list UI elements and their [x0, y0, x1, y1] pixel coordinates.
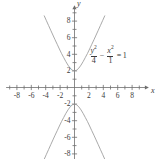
y-tick-label: 2: [61, 67, 71, 75]
x-tick-label: 2: [84, 92, 94, 100]
hyperbola-equation-annotation: y2 4 − x2 1 = 1: [89, 47, 127, 65]
x-axis-label: x: [151, 87, 155, 95]
x-tick-label: -4: [41, 92, 51, 100]
equation-denominator-one: 4: [91, 56, 97, 66]
y-tick-label: 8: [61, 17, 71, 25]
plot-area: [0, 0, 158, 159]
x-tick-label: -8: [12, 92, 22, 100]
equation-numerator-one: y2: [90, 47, 98, 56]
axes-group: [6, 5, 149, 159]
y-tick-label: -4: [61, 117, 71, 125]
x-axis-arrowhead-icon: [145, 85, 149, 89]
x-tick-label: 4: [98, 92, 108, 100]
y-axis-label: y: [77, 0, 81, 8]
equation-equals-sign: =: [117, 52, 122, 60]
x-tick-label: -6: [26, 92, 36, 100]
y-tick-label: 6: [61, 34, 71, 42]
y-tick-label: -8: [61, 150, 71, 158]
y-tick-label: -6: [61, 134, 71, 142]
equation-numerator-one-exp: 2: [94, 44, 97, 50]
equation-minus-operator: −: [100, 52, 105, 60]
y-axis-arrowhead-icon: [72, 5, 76, 9]
equation-numerator-two: x2: [106, 47, 114, 56]
equation-fraction-two: x2 1: [106, 47, 114, 65]
y-tick-label: 4: [61, 51, 71, 59]
equation-denominator-two: 1: [107, 56, 113, 66]
x-tick-label: -2: [55, 92, 65, 100]
x-tick-label: 8: [127, 92, 137, 100]
hyperbola-graph-figure: -8-6-4-224688642-2-4-6-8 x y y2 4 − x2 1…: [0, 0, 158, 159]
equation-fraction-one: y2 4: [90, 47, 98, 65]
x-tick-label: 6: [113, 92, 123, 100]
equation-numerator-two-exp: 2: [111, 44, 114, 50]
equation-right-side: 1: [123, 52, 127, 60]
y-tick-label: -2: [61, 100, 71, 108]
